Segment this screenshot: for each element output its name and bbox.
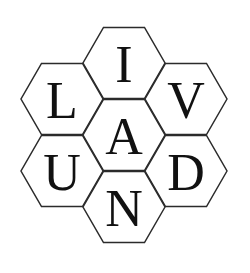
hexagon-letter-i: I: [115, 36, 132, 93]
hexagon-letter-d: D: [167, 144, 205, 201]
hexagon-letter-a: A: [105, 108, 143, 165]
hexagon-logo-canvas: ILVAUDN: [0, 0, 250, 273]
hexagon-logo-svg: ILVAUDN: [0, 0, 250, 273]
hexagon-letter-l: L: [46, 72, 78, 129]
hexagon-letter-n: N: [105, 180, 143, 237]
hexagon-letter-u: U: [43, 144, 81, 201]
hexagon-cell-group: ILVAUDN: [21, 27, 227, 242]
hexagon-letter-v: V: [167, 72, 205, 129]
